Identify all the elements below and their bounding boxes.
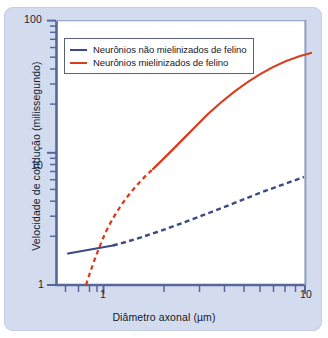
legend-swatch-myelinated <box>70 62 87 64</box>
legend-item-myelinated: Neurônios mielinizados de felino <box>70 56 246 69</box>
legend-label-myelinated: Neurônios mielinizados de felino <box>93 56 228 69</box>
y-tick-label-100: 100 <box>24 13 42 25</box>
x-tick-label-10: 10 <box>300 288 312 300</box>
x-axis-title: Diâmetro axonal (µm) <box>0 311 328 323</box>
figure: 100 10 1 1 10 Diâmetro axonal (µm) Veloc… <box>0 0 328 338</box>
chart-legend: Neurônios não mielinizados de felino Neu… <box>64 38 254 74</box>
legend-swatch-unmyelinated <box>70 49 87 51</box>
x-tick-label-1: 1 <box>100 288 106 300</box>
y-tick-label-1: 1 <box>38 278 44 290</box>
legend-item-unmyelinated: Neurônios não mielinizados de felino <box>70 43 246 56</box>
y-axis-title: Velocidade de condução (milissegundo) <box>30 41 42 271</box>
legend-label-unmyelinated: Neurônios não mielinizados de felino <box>93 43 246 56</box>
